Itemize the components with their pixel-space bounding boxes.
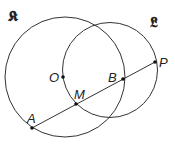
label-circle-l: 𝕷 <box>150 14 158 30</box>
point-o <box>61 75 65 79</box>
point-p <box>153 60 157 64</box>
point-a <box>30 126 34 130</box>
label-o: O <box>49 70 59 85</box>
point-b <box>121 77 125 81</box>
geometry-diagram: O M B P A 𝕶 𝕷 <box>0 0 175 146</box>
label-m: M <box>74 87 85 102</box>
label-b: B <box>108 70 117 85</box>
label-circle-k: 𝕶 <box>7 8 19 24</box>
label-a: A <box>26 111 36 126</box>
circle-k <box>5 17 125 137</box>
label-p: P <box>159 55 168 70</box>
point-m <box>74 102 78 106</box>
